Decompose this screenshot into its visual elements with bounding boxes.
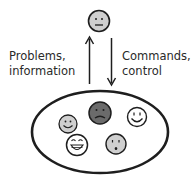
arrow-up-icon bbox=[86, 37, 94, 84]
hierarchy-diagram bbox=[0, 0, 193, 190]
happy-face-icon bbox=[128, 108, 147, 127]
frowning-face-icon bbox=[89, 102, 111, 124]
leader-neutral-face-icon bbox=[89, 11, 110, 32]
worried-face-icon bbox=[106, 134, 126, 154]
arrow-down-icon bbox=[108, 38, 116, 85]
smiling-face-icon bbox=[59, 115, 77, 133]
laughing-face-icon bbox=[67, 135, 88, 156]
